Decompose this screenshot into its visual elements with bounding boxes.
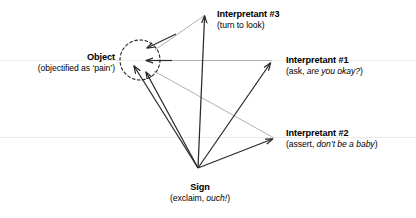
interpretant2-subtitle-suffix: ) [375, 139, 378, 149]
interpretant3-subtitle: (turn to look) [217, 20, 280, 30]
interpretant2-subtitle-emphasis: don’t be a baby [317, 139, 375, 149]
interpretant1-subtitle: (ask, are you okay?) [286, 66, 363, 76]
object-subtitle: (objectified as ‘pain’) [38, 63, 115, 73]
arrow-sign-to-interpretant1 [198, 63, 271, 168]
object-title: Object [38, 52, 115, 63]
diagram-canvas: Object (objectified as ‘pain’) Interpret… [0, 0, 416, 218]
sign-subtitle-prefix: (exclaim, [170, 193, 206, 203]
sign-subtitle-suffix: ) [227, 193, 230, 203]
node-label-sign: Sign (exclaim, ouch!) [150, 182, 250, 203]
node-label-object: Object (objectified as ‘pain’) [38, 52, 115, 73]
interpretant1-subtitle-emphasis: are you okay? [307, 66, 360, 76]
interpretant1-subtitle-suffix: ) [360, 66, 363, 76]
arrow-sign-to-interpretant3 [198, 16, 205, 168]
node-label-interpretant2: Interpretant #2 (assert, don’t be a baby… [286, 128, 377, 149]
arrow-sign-to-object-lower [146, 72, 198, 168]
sign-title: Sign [150, 182, 250, 193]
interpretant3-title: Interpretant #3 [217, 9, 280, 20]
object-subtitle-text: (objectified as ‘pain’) [38, 63, 115, 73]
sign-subtitle-emphasis: ouch! [206, 193, 227, 203]
interpretant1-title: Interpretant #1 [286, 55, 363, 66]
arrow-sign-to-object-upper [134, 66, 198, 168]
interpretant2-title: Interpretant #2 [286, 128, 377, 139]
node-label-interpretant1: Interpretant #1 (ask, are you okay?) [286, 55, 363, 76]
interpretant1-subtitle-prefix: (ask, [286, 66, 307, 76]
interpretant3-subtitle-text: (turn to look) [217, 20, 265, 30]
connector-object-to-interpretant3 [155, 15, 205, 50]
node-label-interpretant3: Interpretant #3 (turn to look) [217, 9, 280, 30]
connector-object-to-interpretant2 [154, 71, 274, 138]
interpretant2-subtitle-prefix: (assert, [286, 139, 317, 149]
sign-subtitle: (exclaim, ouch!) [150, 193, 250, 203]
interpretant2-subtitle: (assert, don’t be a baby) [286, 139, 377, 149]
arrow-sign-to-interpretant2 [198, 139, 273, 168]
